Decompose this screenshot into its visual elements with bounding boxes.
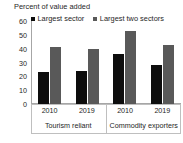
y-axis-tick: 10 [19, 87, 27, 94]
group-label: Commodity exporters [110, 122, 178, 130]
bar [163, 45, 174, 104]
x-axis-tick-label: 2019 [72, 107, 102, 115]
x-axis-category-labels: 2010 2019 2010 2019 [31, 104, 181, 118]
bar-groups [31, 21, 181, 104]
bar [151, 65, 162, 104]
y-axis-tick: 0 [23, 101, 27, 108]
bar [113, 54, 124, 104]
legend-swatch-icon [93, 17, 97, 21]
x-axis-tick-label: 2019 [147, 107, 177, 115]
chart-title: Percent of value added [14, 2, 90, 11]
category-band-bottom-border [31, 133, 181, 134]
bar-cluster [147, 21, 177, 104]
y-axis-tick: 60 [19, 18, 27, 25]
x-axis-tick-label: 2010 [110, 107, 140, 115]
bar [88, 49, 99, 104]
bar-cluster [72, 21, 102, 104]
category-cell-group-2: 2010 2019 [107, 104, 182, 118]
bar-group-commodity-exporters [106, 21, 181, 104]
y-axis-tick: 20 [19, 73, 27, 80]
group-cell-commodity-exporters: Commodity exporters [107, 118, 182, 133]
bar [50, 47, 61, 104]
chart-container: Percent of value added Largest sector La… [0, 0, 183, 143]
group-label: Tourism reliant [45, 122, 92, 130]
bar [76, 71, 87, 104]
y-axis-tick: 30 [19, 59, 27, 66]
group-cell-tourism-reliant: Tourism reliant [31, 118, 107, 133]
bar [125, 31, 136, 104]
bar-cluster [35, 21, 65, 104]
bar-group-tourism-reliant [31, 21, 106, 104]
legend-swatch-icon [31, 17, 35, 21]
x-axis-group-labels: Tourism reliant Commodity exporters [31, 118, 181, 133]
category-cell-group-1: 2010 2019 [31, 104, 107, 118]
y-axis-tick: 40 [19, 45, 27, 52]
y-axis-tick: 50 [19, 31, 27, 38]
plot-area [31, 21, 181, 104]
y-axis: 60 50 40 30 20 10 0 [0, 21, 29, 104]
bar-cluster [110, 21, 140, 104]
x-axis-tick-label: 2010 [35, 107, 65, 115]
bar [38, 72, 49, 104]
